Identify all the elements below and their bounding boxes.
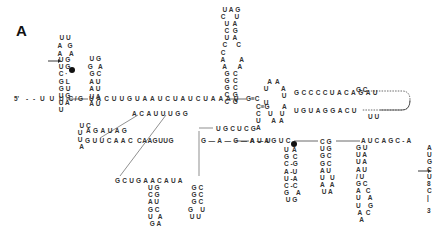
right-loop-arc: A A U A U U [262,78,287,106]
right-loop-lower: C≡G A C U U U A A A [256,103,287,131]
hairpin-3: U A G C U U A C G U A C C C A A A A G C … [219,6,244,105]
three-prime-label: 3 [427,207,431,214]
mid-upper-strand: ACAUUUGG [132,110,190,117]
bottom-strand: GCUGAACAUA [115,177,185,184]
hairpin-5: C G U G G C G C A U U U A A U A [320,138,335,196]
mid-right2-strand: AUAGUC [250,137,293,144]
hairpin-6: G U U A U A A U / U G C A C U A U G A C … [356,144,373,223]
mid-left-strand: AGAUAG [86,127,129,134]
hairpin-2: U G G A G C A U A U U A A U [86,55,103,108]
leader-strand: - - U U U C/G [26,95,85,102]
pseudoknot-uu: U U [368,113,379,120]
junction-gc: G≡C [246,95,260,102]
hairpin-7: U G C G A U G C U A G A [148,184,163,227]
far-right-strand: AUCAGC-A [361,137,413,144]
mid-chain: CAAGUUG [137,137,174,144]
rna-structure-diagram: A 5' - - U U U C/G UACUUGUAAUCUAUCUAAAU … [0,0,447,233]
three-prime-tail: A U G C U 8 C | [427,144,432,202]
five-prime-label: 5' [14,95,19,102]
mid-main-strand: GUUCAAC [85,137,135,144]
pseudoknot-gc: G C [356,86,368,93]
hairpin-1-loop: U U A G A A [56,34,74,58]
mid-upper-right: UGCUCG [216,125,258,132]
right-loop-bottom: UGUAGGACU [294,107,359,114]
hairpin-1-stem: U G U G C · G L G U U G U A U [57,56,70,114]
hairpin-8: G C G C G C G U U U [188,184,205,220]
hairpin-4: U A G C C -G A -U U -A C -C G A U G [284,146,301,204]
